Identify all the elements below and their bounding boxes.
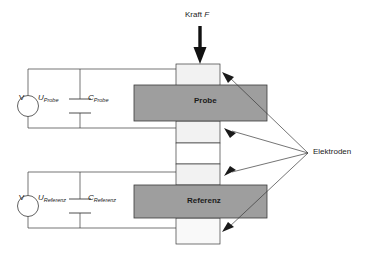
electrode-middle-lower xyxy=(176,164,220,185)
capacitor-upper-label: CProbe xyxy=(88,93,108,102)
electrode-bottom xyxy=(176,218,220,244)
electrodes-label: Elektroden xyxy=(313,148,351,156)
sample-block-label: Probe xyxy=(194,96,217,105)
force-label-text: Kraft xyxy=(185,10,202,19)
reference-block-label: Referenz xyxy=(187,196,221,205)
voltage-upper-label: UProbe xyxy=(38,93,58,102)
voltmeter-upper-label: V xyxy=(19,93,24,102)
capacitor-lower-label: CReferenz xyxy=(88,193,116,202)
capacitor-lower-subscript: Referenz xyxy=(94,197,116,203)
voltage-lower-subscript: Referenz xyxy=(44,197,66,203)
electrode-middle-upper xyxy=(176,121,220,143)
voltage-upper-subscript: Probe xyxy=(44,97,59,103)
voltage-upper-symbol: U xyxy=(38,93,44,102)
force-label: Kraft F xyxy=(185,11,209,19)
electrode-top xyxy=(176,64,220,88)
capacitor-upper-subscript: Probe xyxy=(94,97,109,103)
force-symbol: F xyxy=(204,10,209,19)
diagram-graphics xyxy=(0,0,382,255)
diagram-canvas: Kraft F Probe Referenz Elektroden V V UP… xyxy=(0,0,382,255)
capacitor-upper-symbol: C xyxy=(88,93,94,102)
force-arrow xyxy=(194,26,207,64)
voltage-lower-label: UReferenz xyxy=(38,193,66,202)
electrode-middle-center xyxy=(176,143,220,164)
capacitor-lower-symbol: C xyxy=(88,193,94,202)
voltmeter-lower-label: V xyxy=(19,193,24,202)
voltage-lower-symbol: U xyxy=(38,193,44,202)
